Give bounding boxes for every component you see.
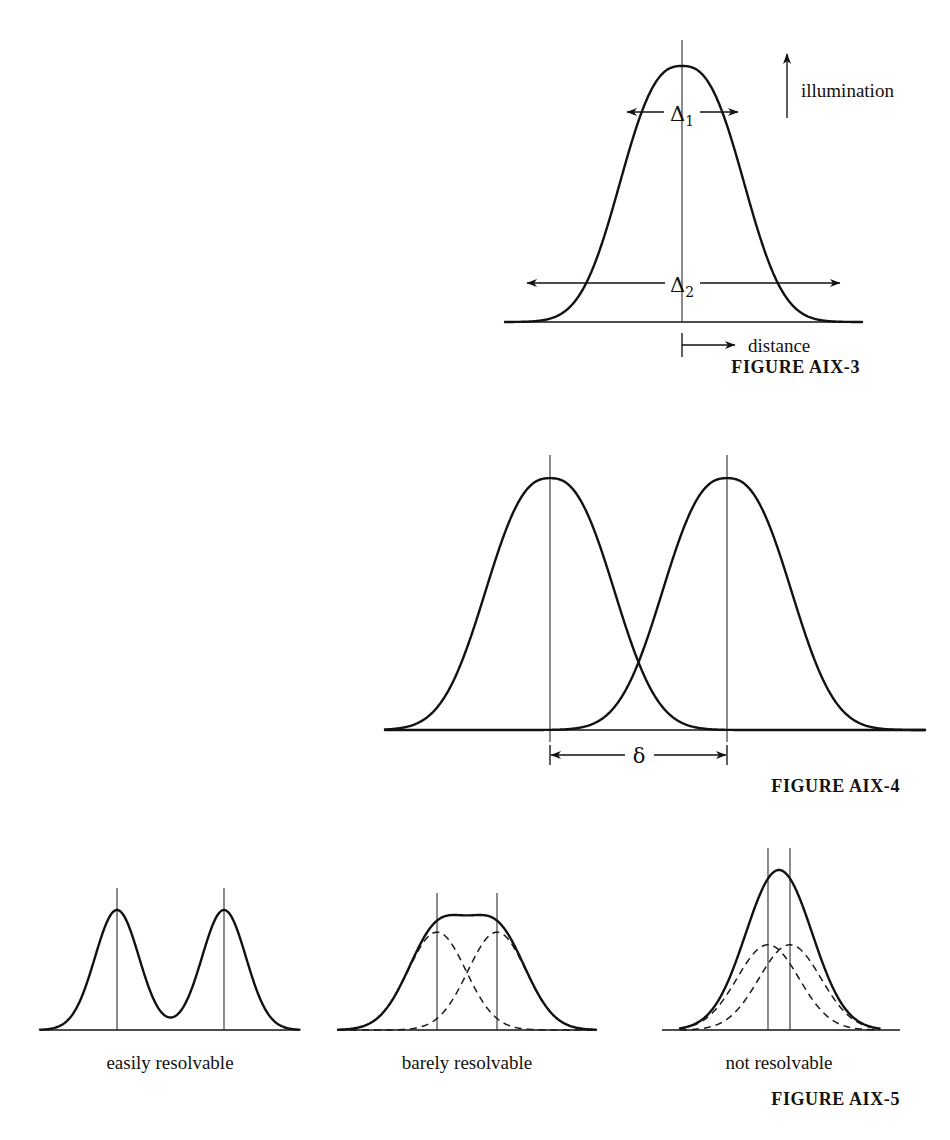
figure-aix-5: easily resolvable barely resolvable not … (40, 848, 900, 1109)
delta-separation-label: δ (633, 744, 646, 768)
aix4-peak-right-curve (385, 478, 925, 730)
figure-aix-4: δ FIGURE AIX-4 (385, 455, 925, 796)
figure-aix-3: Δ1 Δ2 illumination distance FIGURE AIX-3 (505, 40, 894, 377)
distance-axis-label: distance (748, 335, 810, 356)
figure-aix-3-caption: FIGURE AIX-3 (731, 357, 860, 377)
delta2-label: Δ2 (670, 273, 694, 300)
aix3-delta2-dimension: Δ2 (527, 273, 840, 300)
delta1-label: Δ1 (670, 102, 694, 129)
panel2-component-curve-right (338, 932, 596, 1030)
panel1-caption: easily resolvable (106, 1052, 233, 1073)
aix5-panel-barely-resolvable: barely resolvable (338, 893, 596, 1073)
figure-sheet: Δ1 Δ2 illumination distance FIGURE AIX-3 (0, 0, 950, 1140)
panel2-caption: barely resolvable (402, 1052, 532, 1073)
panel2-component-curve-left (338, 932, 596, 1030)
figure-aix-4-caption: FIGURE AIX-4 (771, 776, 900, 796)
panel3-caption: not resolvable (725, 1052, 832, 1073)
aix5-panel-not-resolvable: not resolvable (662, 848, 900, 1073)
figures-canvas: Δ1 Δ2 illumination distance FIGURE AIX-3 (0, 0, 950, 1140)
panel1-sum-curve (40, 910, 300, 1030)
aix4-peak-left-curve (385, 478, 925, 730)
aix4-delta-dimension: δ (550, 744, 727, 768)
illumination-axis-label: illumination (801, 80, 894, 101)
aix5-panel-easily-resolvable: easily resolvable (40, 888, 300, 1073)
panel3-component-curve-right (680, 945, 880, 1030)
aix3-illumination-axis: illumination (787, 54, 894, 118)
aix3-distance-axis: distance (682, 333, 810, 357)
figure-aix-5-caption: FIGURE AIX-5 (771, 1089, 900, 1109)
